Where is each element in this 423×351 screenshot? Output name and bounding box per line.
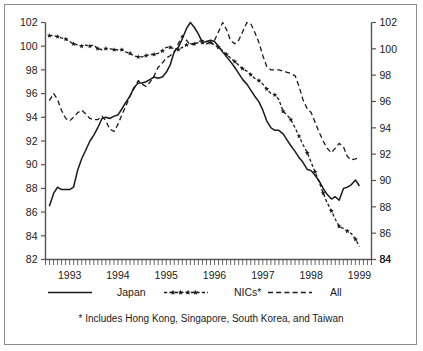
y-axis-label-left-84: 84 xyxy=(26,230,38,242)
series-marker-star xyxy=(87,44,92,49)
x-axis-label-1998: 1998 xyxy=(299,269,323,281)
series-line-japan xyxy=(49,23,359,207)
series-marker-star xyxy=(329,208,334,213)
x-axis-label-1999: 1999 xyxy=(348,269,372,281)
y-axis-label-left-94: 94 xyxy=(26,111,38,123)
legend-item-japan: Japan xyxy=(48,286,146,298)
x-axis-label-1997: 1997 xyxy=(251,269,275,281)
y-axis-label-right-86: 86 xyxy=(380,227,392,239)
series-marker-star xyxy=(103,46,108,51)
y-axis-label-right-100: 100 xyxy=(380,43,398,55)
chart-figure: 8284868890929496981001028486889092949698… xyxy=(0,0,423,351)
series-marker-star xyxy=(152,52,157,57)
series-marker-star xyxy=(257,78,262,83)
y-axis-label-right-92: 92 xyxy=(380,148,392,160)
series-marker-star xyxy=(143,53,148,58)
series-line-nics- xyxy=(49,36,359,247)
series-marker-star xyxy=(248,72,253,77)
series-japan xyxy=(49,23,359,207)
legend-item-all: All xyxy=(268,286,342,298)
series-nics- xyxy=(47,33,360,247)
y-axis-label-left-92: 92 xyxy=(26,135,38,147)
y-axis-label-left-96: 96 xyxy=(26,87,38,99)
series-marker-star xyxy=(345,228,350,233)
line-chart: 8284868890929496981001028486889092949698… xyxy=(0,0,423,351)
series-marker-star xyxy=(264,86,269,91)
series-marker-star xyxy=(136,54,141,59)
y-axis-label-right-96: 96 xyxy=(380,95,392,107)
series-marker-star xyxy=(71,41,76,46)
series-line-all xyxy=(49,23,359,160)
x-axis-label-1993: 1993 xyxy=(58,269,82,281)
y-axis-label-left-100: 100 xyxy=(20,40,38,52)
y-axis-label-right-88: 88 xyxy=(380,201,392,213)
y-axis-label-right-bottom: 84 xyxy=(380,253,392,265)
y-axis-label-right-94: 94 xyxy=(380,122,392,134)
y-axis-label-left-82: 82 xyxy=(26,253,38,265)
series-marker-star xyxy=(176,47,181,52)
x-axis-label-1995: 1995 xyxy=(155,269,179,281)
series-marker-star xyxy=(160,48,165,53)
y-axis-label-right-90: 90 xyxy=(380,174,392,186)
y-axis-label-left-90: 90 xyxy=(26,158,38,170)
y-axis-label-left-86: 86 xyxy=(26,206,38,218)
y-axis-label-left-88: 88 xyxy=(26,182,38,194)
y-axis-label-left-102: 102 xyxy=(20,16,38,28)
y-axis-label-left-98: 98 xyxy=(26,64,38,76)
legend-marker-star xyxy=(178,290,183,295)
legend-label-japan: Japan xyxy=(117,286,146,298)
series-marker-star xyxy=(168,45,173,50)
legend-label-nics: NICs* xyxy=(234,286,261,298)
legend-marker-star xyxy=(185,290,190,295)
series-marker-star xyxy=(55,34,60,39)
x-axis-label-1996: 1996 xyxy=(203,269,227,281)
legend-marker-star xyxy=(193,290,198,295)
legend-label-all: All xyxy=(330,286,342,298)
chart-footnote: * Includes Hong Kong, Singapore, South K… xyxy=(79,313,344,324)
series-marker-star xyxy=(297,134,302,139)
y-axis-label-right-98: 98 xyxy=(380,69,392,81)
series-marker-star xyxy=(272,92,277,97)
series-marker-star xyxy=(119,47,124,52)
series-all xyxy=(49,23,359,160)
legend-item-nics: NICs* xyxy=(164,286,261,298)
series-marker-star xyxy=(112,47,117,52)
series-marker-star xyxy=(79,44,84,49)
y-axis-label-right-102: 102 xyxy=(380,16,398,28)
series-marker-star xyxy=(47,33,52,38)
legend-marker-star xyxy=(170,290,175,295)
x-axis-label-1994: 1994 xyxy=(106,269,130,281)
